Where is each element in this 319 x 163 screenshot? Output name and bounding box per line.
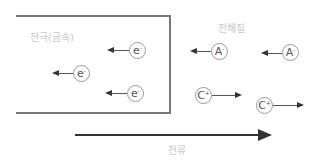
arrow-right-icon <box>235 92 242 98</box>
arrow-line <box>212 95 236 96</box>
electrode-label: 전극(금속) <box>30 29 74 44</box>
arrow-line <box>267 53 282 54</box>
cation-particle: C+ <box>256 97 273 114</box>
electron-particle: e- <box>73 65 90 82</box>
arrow-line <box>111 93 127 94</box>
current-label: 전류 <box>168 142 186 157</box>
anion-particle: A- <box>211 43 228 60</box>
current-arrow-line <box>75 134 260 136</box>
current-arrow-head-icon <box>258 129 272 141</box>
electron-particle: e- <box>127 85 144 102</box>
arrow-line <box>196 51 211 52</box>
cation-particle: C+ <box>195 87 212 104</box>
arrow-line <box>113 50 129 51</box>
electron-particle: e- <box>129 42 146 59</box>
anion-particle: A- <box>282 44 299 61</box>
electrolyte-label: 전해질 <box>218 20 245 35</box>
arrow-line <box>273 105 298 106</box>
arrow-line <box>58 73 74 74</box>
arrow-right-icon <box>297 102 304 108</box>
